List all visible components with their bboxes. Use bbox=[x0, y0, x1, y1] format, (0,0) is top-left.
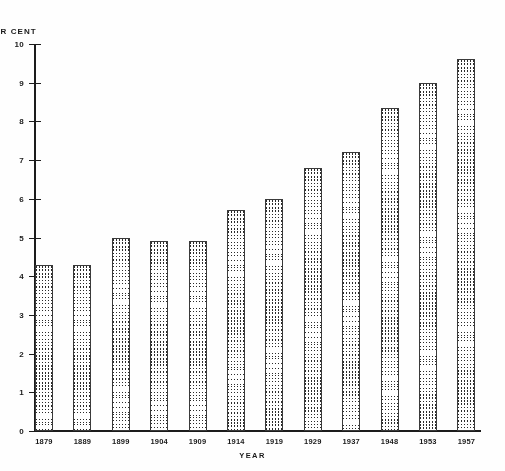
y-axis-tick-label: 9 bbox=[2, 78, 24, 87]
bar bbox=[112, 238, 130, 432]
x-axis-tick-label: 1889 bbox=[66, 437, 98, 446]
bar bbox=[150, 241, 168, 431]
bar bbox=[457, 59, 475, 431]
bar bbox=[342, 152, 360, 431]
x-axis-line bbox=[34, 430, 481, 432]
y-axis-tick-label: 8 bbox=[2, 117, 24, 126]
y-axis-tick-label: 1 bbox=[2, 388, 24, 397]
y-axis-tick-label: 10 bbox=[2, 40, 24, 49]
x-axis-title: YEAR bbox=[0, 451, 505, 460]
y-axis-tick-label: 7 bbox=[2, 156, 24, 165]
x-axis-tick-label: 1929 bbox=[297, 437, 329, 446]
plot-area: 012345678910 187918891899190419091914191… bbox=[0, 0, 505, 471]
x-axis-tick-label: 1919 bbox=[258, 437, 290, 446]
bar bbox=[381, 108, 399, 431]
y-axis-tick-label: 2 bbox=[2, 349, 24, 358]
y-axis-tick bbox=[29, 44, 41, 45]
x-axis-tick-label: 1953 bbox=[412, 437, 444, 446]
bar-chart: ER CENT 012345678910 1879188918991904190… bbox=[0, 0, 505, 471]
bar bbox=[189, 241, 207, 431]
x-axis-tick-label: 1909 bbox=[182, 437, 214, 446]
bar bbox=[73, 265, 91, 431]
y-axis-tick bbox=[29, 121, 41, 122]
bar bbox=[304, 168, 322, 431]
y-axis-tick-label: 6 bbox=[2, 194, 24, 203]
y-axis-tick bbox=[29, 431, 41, 432]
bar bbox=[227, 210, 245, 431]
x-axis-tick-label: 1957 bbox=[450, 437, 482, 446]
y-axis-tick-label: 3 bbox=[2, 310, 24, 319]
bar bbox=[265, 199, 283, 431]
x-axis-tick-label: 1879 bbox=[28, 437, 60, 446]
y-axis-tick bbox=[29, 160, 41, 161]
bar bbox=[419, 83, 437, 431]
y-axis-tick bbox=[29, 199, 41, 200]
y-axis-tick-label: 4 bbox=[2, 272, 24, 281]
x-axis-tick-label: 1937 bbox=[335, 437, 367, 446]
x-axis-tick-label: 1904 bbox=[143, 437, 175, 446]
bar bbox=[35, 265, 53, 431]
x-axis-tick-label: 1899 bbox=[105, 437, 137, 446]
y-axis-tick-label: 0 bbox=[2, 427, 24, 436]
x-axis-tick-label: 1914 bbox=[220, 437, 252, 446]
y-axis-tick-label: 5 bbox=[2, 233, 24, 242]
x-axis-tick-label: 1948 bbox=[374, 437, 406, 446]
y-axis-tick bbox=[29, 238, 41, 239]
y-axis-tick bbox=[29, 83, 41, 84]
